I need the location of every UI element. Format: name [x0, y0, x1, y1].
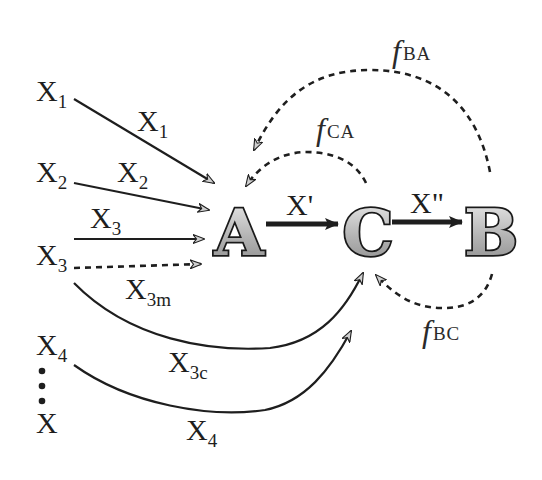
- svg-text:fBC: fBC: [422, 313, 460, 349]
- svg-text:C: C: [343, 195, 394, 270]
- ellipsis-dots: [39, 368, 46, 405]
- svg-text:X: X: [36, 406, 58, 439]
- label-f-ca: fCA: [316, 111, 355, 147]
- svg-text:X1: X1: [137, 104, 168, 142]
- arrow-x4-to-c: [74, 331, 351, 412]
- input-x2: X2: [36, 155, 67, 193]
- svg-text:X1: X1: [36, 74, 67, 112]
- svg-text:X3: X3: [90, 201, 121, 239]
- arrow-x3c-to-c: [74, 273, 363, 349]
- svg-text:fBA: fBA: [392, 33, 431, 69]
- input-x1: X1: [36, 74, 67, 112]
- svg-text:X3c: X3c: [168, 345, 208, 383]
- feedback-b-to-a: [254, 70, 490, 172]
- label-x2: X2: [117, 155, 148, 193]
- svg-text:X4: X4: [36, 328, 68, 366]
- node-a: A: [213, 195, 265, 270]
- input-x: X: [36, 406, 58, 439]
- label-x1: X1: [137, 104, 168, 142]
- label-x-double-prime: X": [410, 186, 444, 219]
- label-x3m: X3m: [125, 272, 171, 310]
- svg-text:X": X": [410, 186, 444, 219]
- svg-text:X2: X2: [117, 155, 148, 193]
- label-x3c: X3c: [168, 345, 208, 383]
- svg-text:X': X': [286, 188, 313, 221]
- feedback-c-to-a: [246, 152, 366, 186]
- svg-text:A: A: [213, 195, 265, 270]
- feedback-b-to-c: [376, 274, 492, 308]
- label-f-ba: fBA: [392, 33, 431, 69]
- label-x4: X4: [186, 413, 218, 451]
- flow-diagram: X1 X2 X3 X4 X X1 X2 X3 X3m X3c X4 A: [0, 0, 542, 480]
- label-x3: X3: [90, 201, 121, 239]
- svg-text:B: B: [464, 195, 518, 270]
- svg-text:X4: X4: [186, 413, 218, 451]
- input-x3: X3: [36, 238, 67, 276]
- node-c: C: [343, 195, 394, 270]
- node-b: B: [464, 195, 518, 270]
- arrow-x3m-to-a: [74, 264, 201, 268]
- input-x4: X4: [36, 328, 68, 366]
- svg-text:fCA: fCA: [316, 111, 355, 147]
- label-x-prime: X': [286, 188, 313, 221]
- svg-text:X3: X3: [36, 238, 67, 276]
- label-f-bc: fBC: [422, 313, 460, 349]
- svg-text:X2: X2: [36, 155, 67, 193]
- svg-text:X3m: X3m: [125, 272, 171, 310]
